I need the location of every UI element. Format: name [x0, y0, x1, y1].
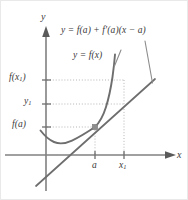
leader-line-tangent-equation — [145, 41, 153, 83]
y-tick-label-fx1-suffix: ) — [23, 72, 26, 82]
y-tick-label-fa: f(a) — [12, 120, 26, 130]
y-axis-label: y — [41, 12, 46, 22]
tangent-point-marker — [92, 124, 97, 129]
linear-approximation-figure: y = f(a) + f′(a)(x − a) y = f(x) y x f(x… — [0, 0, 188, 200]
x-tick-label-x1: x1 — [119, 161, 127, 171]
y-tick-label-fx1: f(x1) — [9, 73, 26, 83]
function-curve — [41, 55, 116, 144]
tick-marks-group — [42, 80, 124, 159]
y-tick-label-y1-subscript: 1 — [28, 99, 31, 106]
leader-lines-group — [115, 41, 153, 83]
tangent-equation-label: y = f(a) + f′(a)(x − a) — [61, 26, 146, 36]
curve-equation-label: y = f(x) — [73, 51, 102, 61]
x-tick-label-a: a — [92, 161, 97, 171]
y-tick-label-y1: y1 — [24, 97, 32, 107]
y-tick-label-fx1-text: f(x — [9, 72, 19, 82]
x-tick-label-x1-subscript: 1 — [123, 163, 126, 170]
x-axis-label: x — [177, 150, 182, 160]
x-axis-arrow-icon — [165, 151, 176, 159]
y-axis-arrow-icon — [42, 26, 50, 37]
